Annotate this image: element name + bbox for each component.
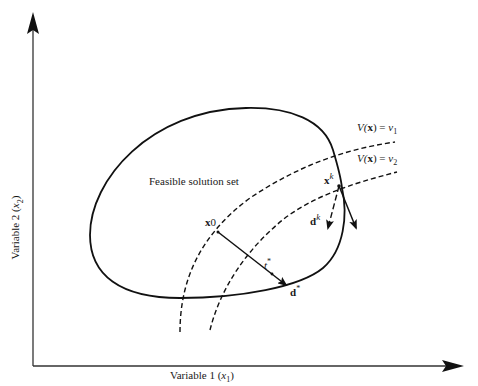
tstar-label: t*: [264, 258, 271, 271]
xk-label: xk: [324, 172, 334, 186]
point-tstar: [271, 273, 274, 276]
contour-v1-label: V(x) = v1: [357, 122, 397, 136]
contour-v2-label: V(x) = v2: [357, 153, 397, 167]
feasible-set-boundary: [90, 108, 345, 298]
dstar-label: d*: [290, 285, 300, 298]
point-x0: [217, 231, 220, 234]
y-axis-label: Variable 2 (x2): [9, 173, 24, 283]
contour-v1: [180, 142, 395, 332]
contour-v2: [210, 172, 397, 330]
x0-label: x0: [205, 217, 216, 228]
point-xk: [337, 184, 341, 188]
x-axis-label: Variable 1 (x1): [170, 370, 234, 384]
x-axis: [33, 360, 464, 372]
feasible-set-label: Feasible solution set: [149, 176, 239, 187]
direction-dstar-arrow: [218, 232, 286, 285]
dk-label: dk: [310, 213, 320, 227]
y-axis: [27, 12, 39, 366]
gradient-arrow-xk: [339, 186, 356, 228]
diagram-canvas: [0, 0, 478, 386]
